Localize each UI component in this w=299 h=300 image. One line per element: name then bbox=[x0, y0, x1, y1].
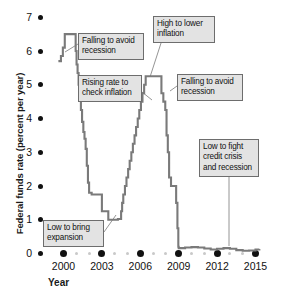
annotation-leader-high-to-lower-inflation bbox=[150, 40, 162, 77]
annotation-text-line: check inflation bbox=[82, 88, 138, 98]
annotation-text-line: recession bbox=[82, 46, 140, 56]
annotation-low-to-bring-expansion: Low to bringexpansion bbox=[43, 220, 104, 247]
annotation-text-line: Falling to avoid bbox=[82, 36, 140, 46]
annotation-text-line: and recession bbox=[203, 163, 255, 173]
annotation-high-to-lower-inflation: High to lowerinflation bbox=[153, 16, 215, 43]
annotation-text-line: credit crisis bbox=[203, 152, 255, 162]
annotation-leader-falling-avoid-recession-2 bbox=[170, 86, 177, 91]
chart-container: Federal funds rate (percent per year) Ye… bbox=[0, 0, 299, 300]
annotation-falling-avoid-recession-2: Falling to avoidrecession bbox=[177, 74, 243, 101]
annotation-text-line: Low to fight bbox=[203, 142, 255, 152]
annotation-rising-check-inflation: Rising rate tocheck inflation bbox=[78, 75, 142, 102]
annotation-text-line: Low to bring bbox=[47, 223, 100, 233]
annotation-text-line: Rising rate to bbox=[82, 78, 138, 88]
annotation-text-line: inflation bbox=[157, 29, 211, 39]
annotation-text-line: Falling to avoid bbox=[181, 77, 239, 87]
annotation-text-line: recession bbox=[181, 87, 239, 97]
annotation-falling-avoid-recession-1: Falling to avoidrecession bbox=[78, 33, 144, 60]
annotation-text-line: expansion bbox=[47, 233, 100, 243]
annotation-leader-low-to-bring-expansion bbox=[104, 215, 116, 232]
annotation-low-fight-credit-crisis: Low to fightcredit crisisand recession bbox=[199, 139, 259, 177]
annotation-text-line: High to lower bbox=[157, 19, 211, 29]
